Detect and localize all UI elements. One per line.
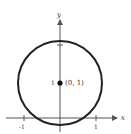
- y-axis-label: y: [56, 11, 62, 19]
- y-tick-label-1: 1: [51, 79, 55, 86]
- center-point: [57, 80, 62, 85]
- x-tick-label-1: 1: [94, 123, 98, 130]
- circle-diagram: y x -1 1 1 (0, 1): [0, 0, 131, 134]
- diagram-canvas: y x -1 1 1 (0, 1): [0, 0, 131, 134]
- center-point-label: (0, 1): [65, 79, 84, 87]
- x-axis-label: x: [121, 114, 125, 122]
- x-tick-label-neg1: -1: [19, 123, 25, 130]
